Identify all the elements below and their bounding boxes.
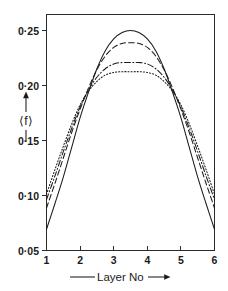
- y-tick-label-0p20: 0·20: [18, 80, 39, 92]
- y-tick-labels: 0·25 0·20 0·15 0·10 0·05: [18, 25, 39, 257]
- y-tick-label-0p25: 0·25: [18, 25, 39, 37]
- y-tick-label-0p10: 0·10: [18, 190, 39, 202]
- y-tick-label-0p05: 0·05: [18, 245, 39, 257]
- x-tick-label-2: 2: [77, 254, 83, 266]
- data-curves: [47, 30, 215, 229]
- y-axis-title: ⟨f⟩: [19, 114, 32, 128]
- plot-canvas: 0·25 0·20 0·15 0·10 0·05 1 2 3 4 5 6 ⟨f⟩: [0, 0, 228, 291]
- y-tick-label-0p15: 0·15: [18, 135, 39, 147]
- curve-series-0: [47, 30, 215, 229]
- x-tick-label-5: 5: [178, 254, 184, 266]
- x-axis-title: Layer No: [97, 271, 144, 283]
- x-tick-label-1: 1: [44, 254, 50, 266]
- y-axis-up-arrow-head: [23, 92, 29, 99]
- y-tick-marks: [42, 31, 47, 251]
- x-tick-label-6: 6: [212, 254, 218, 266]
- x-axis-title-arrow-head: [164, 274, 170, 280]
- x-tick-labels: 1 2 3 4 5 6: [44, 254, 218, 266]
- x-tick-marks: [47, 246, 215, 251]
- x-axis-title-group: Layer No: [70, 271, 171, 283]
- x-tick-label-4: 4: [144, 254, 150, 266]
- x-tick-label-3: 3: [111, 254, 117, 266]
- chart-figure: 0·25 0·20 0·15 0·10 0·05 1 2 3 4 5 6 ⟨f⟩: [0, 0, 228, 291]
